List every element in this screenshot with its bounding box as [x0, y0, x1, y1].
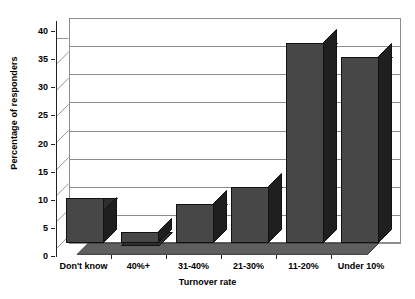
y-tick-label-0: 0 — [22, 252, 48, 261]
gridline-40 — [69, 18, 401, 19]
x-tick-label-21-30: 21-30% — [221, 261, 276, 271]
bar-side-face — [378, 43, 392, 243]
y-tick-label-40: 40 — [22, 27, 48, 36]
bar-side-face — [158, 218, 172, 243]
turnover-rate-bar-chart: 40 35 30 25 20 15 10 5 0 Don't know 40%+… — [0, 0, 415, 299]
y-tick-mark-15 — [51, 172, 55, 173]
bar-side-face — [213, 190, 227, 243]
y-tick-label-15: 15 — [22, 168, 48, 177]
bar-side-face — [268, 173, 282, 243]
bar-11-20 — [286, 43, 324, 243]
x-tick-label-dont-know: Don't know — [56, 261, 111, 271]
bar-31-40 — [176, 204, 214, 243]
bar-front-face — [176, 204, 214, 243]
bar-under-10 — [341, 57, 379, 243]
y-tick-label-5: 5 — [22, 224, 48, 233]
y-tick-mark-10 — [51, 200, 55, 201]
y-axis-title: Percentage of responders — [9, 13, 19, 213]
x-tick-mark-2 — [166, 255, 167, 259]
bar-front-face — [286, 43, 324, 243]
bar-21-30 — [231, 187, 269, 243]
y-tick-label-35: 35 — [22, 55, 48, 64]
bar-dont-know — [66, 198, 104, 243]
y-tick-label-30: 30 — [22, 83, 48, 92]
plot-floor — [56, 243, 401, 257]
bar-side-face — [323, 29, 337, 243]
y-tick-mark-5 — [51, 228, 55, 229]
bar-front-face — [231, 187, 269, 243]
y-tick-mark-30 — [51, 87, 55, 88]
bar-front-face — [121, 232, 159, 243]
gridline-35 — [69, 46, 401, 47]
y-tick-mark-40 — [51, 31, 55, 32]
bar-front-face — [341, 57, 379, 243]
bar-40-plus — [121, 232, 159, 243]
x-tick-mark-4 — [276, 255, 277, 259]
y-tick-mark-25 — [51, 115, 55, 116]
x-axis-title: Turnover rate — [0, 277, 415, 287]
x-tick-label-11-20: 11-20% — [276, 261, 331, 271]
x-tick-label-31-40: 31-40% — [166, 261, 221, 271]
y-tick-label-25: 25 — [22, 111, 48, 120]
x-tick-label-40-plus: 40%+ — [111, 261, 166, 271]
y-tick-mark-35 — [51, 59, 55, 60]
bar-front-face — [66, 198, 104, 243]
y-axis-line — [56, 21, 57, 257]
y-tick-mark-20 — [51, 144, 55, 145]
bar-side-face — [103, 197, 117, 243]
x-tick-label-under-10: Under 10% — [331, 261, 391, 271]
y-tick-label-20: 20 — [22, 140, 48, 149]
y-tick-mark-0 — [51, 256, 55, 257]
y-tick-label-10: 10 — [22, 196, 48, 205]
x-tick-mark-1 — [111, 255, 112, 259]
x-tick-mark-3 — [221, 255, 222, 259]
x-tick-mark-5 — [331, 255, 332, 259]
